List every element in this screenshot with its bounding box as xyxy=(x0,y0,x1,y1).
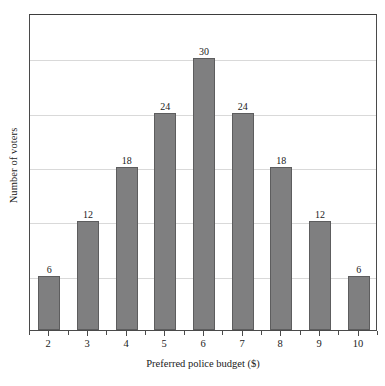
x-tick-minor xyxy=(145,331,146,335)
bar-slot: 24 xyxy=(146,15,185,330)
x-tick-major xyxy=(48,331,49,336)
bar[interactable] xyxy=(116,167,138,330)
x-tick-label: 7 xyxy=(239,338,244,349)
bar-slot: 18 xyxy=(262,15,301,330)
bar-value-label: 6 xyxy=(47,264,52,275)
x-tick-label: 6 xyxy=(200,338,205,349)
y-axis-title: Number of voters xyxy=(0,0,28,331)
x-tick-minor xyxy=(29,331,30,335)
x-tick-minor xyxy=(300,331,301,335)
bar-value-label: 30 xyxy=(199,46,209,57)
x-tick-major xyxy=(358,331,359,336)
bar-slot: 24 xyxy=(223,15,262,330)
x-axis-tick-labels: 2345678910 xyxy=(29,338,377,354)
x-tick-label: 5 xyxy=(161,338,166,349)
bar-slot: 18 xyxy=(107,15,146,330)
x-tick-label: 9 xyxy=(316,338,321,349)
bar[interactable] xyxy=(154,113,176,330)
x-tick-major xyxy=(87,331,88,336)
x-tick-major xyxy=(242,331,243,336)
bar-slot: 12 xyxy=(301,15,340,330)
bar-value-label: 12 xyxy=(83,209,93,220)
x-tick-minor xyxy=(184,331,185,335)
x-tick-minor xyxy=(106,331,107,335)
bar-chart-figure: Number of voters 6121824302418126 234567… xyxy=(0,0,385,386)
bar[interactable] xyxy=(193,58,215,330)
x-tick-minor xyxy=(338,331,339,335)
x-tick-minor xyxy=(68,331,69,335)
x-tick-major xyxy=(164,331,165,336)
x-axis-title: Preferred police budget ($) xyxy=(29,358,377,369)
y-axis-title-text: Number of voters xyxy=(9,128,20,204)
x-tick-minor xyxy=(222,331,223,335)
plot-area: 6121824302418126 xyxy=(29,14,377,331)
x-tick-label: 8 xyxy=(277,338,282,349)
x-tick-major xyxy=(319,331,320,336)
x-tick-major xyxy=(126,331,127,336)
bar[interactable] xyxy=(77,221,99,330)
x-tick-label: 4 xyxy=(123,338,128,349)
bar-value-label: 24 xyxy=(238,101,248,112)
bar-slot: 6 xyxy=(339,15,378,330)
bar[interactable] xyxy=(232,113,254,330)
x-tick-minor xyxy=(261,331,262,335)
bar[interactable] xyxy=(348,276,370,330)
bar-series: 6121824302418126 xyxy=(30,15,376,330)
bar[interactable] xyxy=(309,221,331,330)
bar-value-label: 6 xyxy=(356,264,361,275)
bar-slot: 6 xyxy=(30,15,69,330)
x-tick-minor xyxy=(377,331,378,335)
x-tick-label: 3 xyxy=(84,338,89,349)
bar-value-label: 18 xyxy=(122,155,132,166)
bar[interactable] xyxy=(38,276,60,330)
bar-value-label: 24 xyxy=(160,101,170,112)
bar-slot: 12 xyxy=(69,15,108,330)
x-axis-ticks xyxy=(29,331,377,337)
bar-slot: 30 xyxy=(185,15,224,330)
x-tick-major xyxy=(280,331,281,336)
x-tick-label: 10 xyxy=(353,338,364,349)
x-tick-major xyxy=(203,331,204,336)
bar-value-label: 18 xyxy=(276,155,286,166)
bar-value-label: 12 xyxy=(315,209,325,220)
bar[interactable] xyxy=(270,167,292,330)
x-tick-label: 2 xyxy=(45,338,50,349)
